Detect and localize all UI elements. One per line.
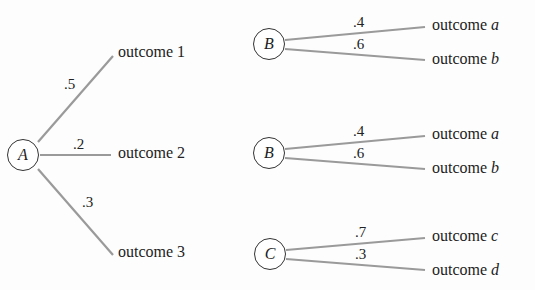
probability-label: .4 — [353, 14, 364, 31]
probability-label: .6 — [353, 145, 364, 162]
probability-label: .4 — [353, 123, 364, 140]
chance-node-a: A — [7, 139, 39, 171]
outcome-label: outcome 1 — [118, 43, 185, 61]
chance-node-b: B — [253, 28, 285, 60]
outcome-label: outcome b — [432, 159, 499, 177]
outcome-label: outcome b — [432, 50, 499, 68]
probability-label: .3 — [355, 246, 366, 263]
outcome-label: outcome d — [432, 261, 499, 279]
probability-label: .6 — [353, 36, 364, 53]
outcome-label: outcome 2 — [118, 144, 185, 162]
chance-node-c: C — [254, 238, 286, 270]
outcome-label: outcome 3 — [118, 243, 185, 261]
probability-label: .7 — [355, 224, 366, 241]
chance-node-b: B — [253, 137, 285, 169]
probability-label: .2 — [73, 136, 84, 153]
outcome-label: outcome c — [432, 227, 498, 245]
probability-label: .3 — [82, 194, 93, 211]
outcome-label: outcome a — [432, 125, 499, 143]
decision-tree-diagram: A .5 .2 .3 outcome 1 outcome 2 outcome 3… — [0, 0, 535, 290]
probability-label: .5 — [64, 76, 75, 93]
outcome-label: outcome a — [432, 16, 499, 34]
